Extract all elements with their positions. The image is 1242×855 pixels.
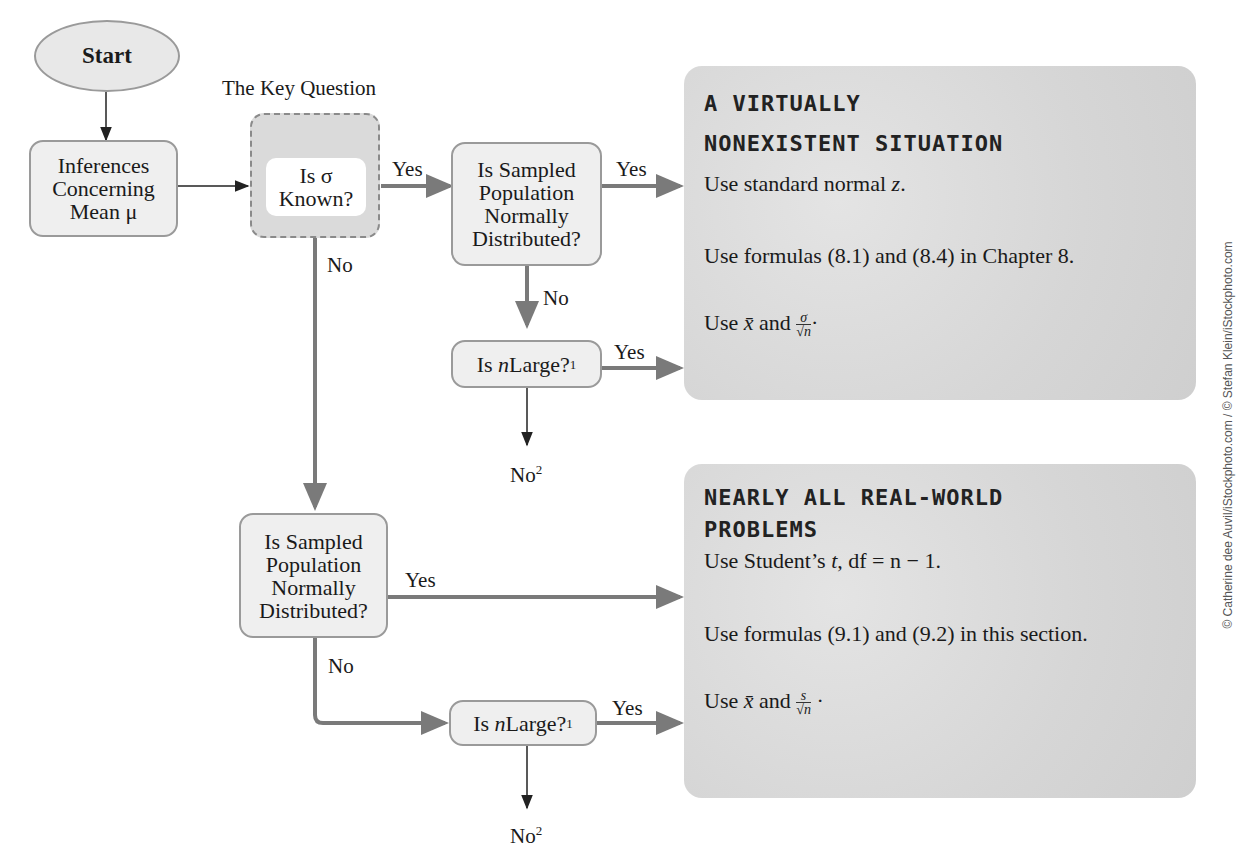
n-var: n	[498, 353, 509, 376]
numerator: σ	[796, 311, 811, 325]
label-yes: Yes	[616, 157, 647, 182]
panel-line-2: Use formulas (9.1) and (9.2) in this sec…	[704, 621, 1088, 647]
label-no: No	[543, 286, 569, 311]
n-large-suffix: Large?	[506, 712, 567, 735]
footnote-2: 2	[536, 462, 543, 477]
text: .	[900, 171, 906, 196]
label-no: No	[510, 463, 536, 487]
sigma-known-label: Is σ Known?	[266, 158, 366, 216]
text: Use standard normal	[704, 171, 892, 196]
photo-credit: © Catherine dee Auvil/iStockphoto.com / …	[1221, 241, 1235, 628]
n-large-suffix: Large?	[509, 353, 570, 376]
panel-line-1: Use standard normal z.	[704, 171, 906, 197]
footnote-1: 1	[570, 353, 577, 376]
text: Use Student’s	[704, 548, 831, 573]
sampled-line: Is Sampled	[477, 158, 575, 181]
label-no: No	[328, 654, 354, 679]
sampled-line: Normally	[271, 576, 355, 599]
fraction: s√n	[796, 689, 811, 716]
footnote-2: 2	[536, 823, 543, 838]
n-large-node-lower: Is n Large?1	[449, 700, 597, 746]
label-no-2: No2	[510, 823, 542, 849]
n-large-prefix: Is	[477, 353, 493, 376]
panel-title: NEARLY ALL REAL-WORLD PROBLEMS	[704, 482, 1196, 546]
panel-title-line: A VIRTUALLY	[704, 84, 1196, 124]
fraction: σ√n	[796, 311, 811, 338]
footnote-1: 1	[566, 712, 573, 735]
sampled-line: Distributed?	[259, 599, 368, 622]
denominator: √n	[796, 703, 811, 716]
sigma-line: Is σ	[299, 164, 332, 187]
numerator: s	[796, 689, 811, 703]
start-node: Start	[34, 20, 180, 92]
inferences-line: Inferences	[58, 154, 150, 177]
panel-title: A VIRTUALLY NONEXISTENT SITUATION	[704, 84, 1196, 164]
sampled-normal-node-upper: Is Sampled Population Normally Distribut…	[451, 142, 602, 266]
panel-title-line: PROBLEMS	[704, 514, 1196, 546]
panel-line-3: Use x̄ and σ√n·	[704, 310, 818, 338]
n-large-node-upper: Is n Large?1	[451, 340, 602, 388]
label-no-2: No2	[510, 462, 542, 488]
text: Use	[704, 688, 744, 713]
label-yes: Yes	[405, 568, 436, 593]
text: ·	[811, 688, 824, 713]
var-z: z	[892, 171, 901, 196]
label-no: No	[327, 253, 353, 278]
text: and	[753, 688, 796, 713]
key-question-caption: The Key Question	[222, 76, 376, 101]
text: ·	[811, 310, 818, 335]
sampled-line: Normally	[484, 204, 568, 227]
panel-title-line: NONEXISTENT SITUATION	[704, 124, 1196, 164]
denominator: √n	[796, 325, 811, 338]
sigma-known-node: Is σ Known?	[250, 113, 380, 238]
n-var: n	[495, 712, 506, 735]
sigma-line: Known?	[279, 187, 354, 210]
start-label: Start	[82, 43, 132, 69]
label-no: No	[510, 824, 536, 848]
text: Use	[704, 310, 744, 335]
panel-real-world: NEARLY ALL REAL-WORLD PROBLEMS Use Stude…	[684, 464, 1196, 798]
sampled-line: Population	[479, 181, 574, 204]
inferences-node: Inferences Concerning Mean μ	[29, 140, 178, 237]
panel-line-1: Use Student’s t, df = n − 1.	[704, 548, 941, 574]
panel-line-3: Use x̄ and s√n ·	[704, 688, 824, 716]
panel-line-2: Use formulas (8.1) and (8.4) in Chapter …	[704, 243, 1074, 269]
sampled-line: Distributed?	[472, 227, 581, 250]
label-yes: Yes	[612, 696, 643, 721]
inferences-line: Concerning	[52, 177, 155, 200]
label-yes: Yes	[614, 340, 645, 365]
sampled-normal-node-lower: Is Sampled Population Normally Distribut…	[239, 513, 388, 638]
sampled-line: Population	[266, 553, 361, 576]
panel-title-line: NEARLY ALL REAL-WORLD	[704, 482, 1196, 514]
sampled-line: Is Sampled	[264, 530, 362, 553]
panel-virtually-nonexistent: A VIRTUALLY NONEXISTENT SITUATION Use st…	[684, 66, 1196, 400]
n-large-prefix: Is	[473, 712, 489, 735]
inferences-line: Mean μ	[70, 200, 137, 223]
text: and	[753, 310, 796, 335]
label-yes: Yes	[392, 157, 423, 182]
text: , df = n − 1.	[837, 548, 941, 573]
